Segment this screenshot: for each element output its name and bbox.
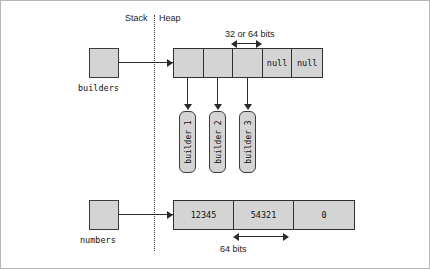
width-annotation-value: 64 bits — [220, 244, 247, 254]
stack-box-numbers — [89, 200, 119, 230]
width-measure-line-pointer — [237, 43, 258, 44]
pointer-arrowhead-builder-1 — [184, 104, 192, 110]
stack-label-numbers: numbers — [80, 235, 116, 245]
heap-array-builders: null null — [173, 48, 323, 78]
pointer-line-builders — [119, 62, 173, 63]
pointer-line-builder-1 — [187, 78, 188, 105]
stack-box-builders — [89, 48, 119, 78]
width-measure-arrow-right — [283, 233, 289, 241]
memory-layout-diagram: Stack Heap builders null null 32 or 64 b… — [0, 0, 430, 269]
pointer-line-builder-3 — [247, 78, 248, 105]
heap-object-builder-1: builder 1 — [179, 111, 196, 173]
array-cell: 12345 — [174, 201, 234, 229]
array-cell: 0 — [294, 201, 354, 229]
width-measure-line-value — [239, 236, 285, 237]
array-cell — [174, 49, 204, 77]
heap-zone-label: Heap — [159, 13, 181, 23]
heap-object-builder-2: builder 2 — [209, 111, 226, 173]
array-cell — [204, 49, 234, 77]
array-cell — [233, 49, 263, 77]
array-cell-null: null — [292, 49, 322, 77]
heap-object-label: builder 2 — [213, 120, 222, 163]
stack-heap-divider — [154, 15, 155, 251]
width-measure-arrow-right — [256, 40, 262, 48]
heap-object-label: builder 3 — [243, 120, 252, 163]
heap-array-numbers: 12345 54321 0 — [173, 200, 355, 230]
array-cell-null: null — [263, 49, 293, 77]
width-measure-arrow-left — [231, 40, 237, 48]
pointer-arrowhead-builder-2 — [214, 104, 222, 110]
heap-object-label: builder 1 — [183, 120, 192, 163]
stack-label-builders: builders — [78, 83, 119, 93]
pointer-arrowhead-builder-3 — [244, 104, 252, 110]
width-measure-arrow-left — [233, 233, 239, 241]
heap-object-builder-3: builder 3 — [239, 111, 256, 173]
stack-zone-label: Stack — [125, 13, 148, 23]
width-annotation-pointer: 32 or 64 bits — [225, 29, 275, 39]
pointer-line-numbers — [119, 214, 173, 215]
pointer-line-builder-2 — [217, 78, 218, 105]
array-cell: 54321 — [234, 201, 294, 229]
